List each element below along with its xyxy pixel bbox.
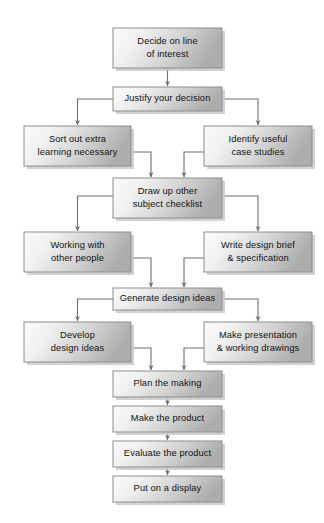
node-label: Develop: [60, 330, 95, 340]
node-label: & specification: [227, 253, 288, 263]
connector-generate-to-make-presentation: [222, 299, 258, 321]
node-label: learning necessary: [38, 147, 118, 157]
flowchart-diagram: Decide on lineof interestJustify your de…: [0, 0, 324, 523]
node-label: & working drawings: [217, 343, 300, 353]
node-label: Evaluate the product: [124, 448, 212, 458]
flowchart-node-generate-design-ideas[interactable]: Generate design ideas: [113, 288, 225, 313]
connector-justify-to-identify: [222, 99, 258, 125]
node-label: Identify useful: [229, 134, 288, 144]
flowchart-node-develop-design-ideas[interactable]: Developdesign ideas: [24, 322, 134, 365]
node-label: of interest: [147, 49, 189, 59]
node-label: Draw up other: [138, 186, 198, 196]
flowchart-node-plan-the-making[interactable]: Plan the making: [113, 371, 225, 400]
flowchart-node-justify-your-decision[interactable]: Justify your decision: [113, 87, 225, 114]
connector-draw-up-to-write-design-brief: [222, 196, 258, 231]
node-label: Generate design ideas: [120, 293, 216, 303]
node-label: Make presentation: [219, 330, 297, 340]
flowchart-node-sort-out-extra-learning-necessary[interactable]: Sort out extralearning necessary: [24, 126, 134, 169]
node-label: design ideas: [51, 343, 105, 353]
connector-generate-to-develop: [78, 299, 114, 321]
node-label: Plan the making: [133, 378, 201, 388]
flowchart-nodes-group: Decide on lineof interestJustify your de…: [24, 28, 315, 505]
connector-draw-up-to-working-with: [78, 196, 114, 231]
flowchart-node-make-presentation-and-working-drawings[interactable]: Make presentation& working drawings: [204, 322, 315, 365]
flowchart-node-identify-useful-case-studies[interactable]: Identify usefulcase studies: [204, 126, 315, 169]
node-label: Decide on line: [137, 36, 197, 46]
connector-make-presentation-to-plan-the-making: [184, 348, 204, 370]
flowchart-node-evaluate-the-product[interactable]: Evaluate the product: [113, 441, 225, 470]
flowchart-node-draw-up-other-subject-checklist[interactable]: Draw up othersubject checklist: [113, 178, 225, 221]
flowchart-canvas: Decide on lineof interestJustify your de…: [0, 0, 324, 523]
node-label: Put on a display: [134, 483, 202, 493]
node-label: Make the product: [131, 413, 205, 423]
flowchart-node-write-design-brief-and-specification[interactable]: Write design brief& specification: [204, 232, 315, 275]
node-label: Write design brief: [221, 240, 295, 250]
node-label: subject checklist: [133, 199, 203, 209]
node-label: Sort out extra: [49, 134, 107, 144]
node-label: case studies: [232, 147, 285, 157]
flowchart-node-working-with-other-people[interactable]: Working withother people: [24, 232, 134, 275]
node-label: Working with: [50, 240, 104, 250]
connector-identify-to-draw-up: [184, 152, 204, 177]
connector-justify-to-sort-out: [78, 99, 114, 125]
flowchart-node-decide-on-line-of-interest[interactable]: Decide on lineof interest: [113, 28, 225, 71]
flowchart-node-put-on-a-display[interactable]: Put on a display: [113, 476, 225, 505]
node-label: Justify your decision: [125, 93, 211, 103]
node-label: other people: [51, 253, 104, 263]
flowchart-node-make-the-product[interactable]: Make the product: [113, 406, 225, 435]
connector-write-design-brief-to-generate: [184, 258, 204, 287]
